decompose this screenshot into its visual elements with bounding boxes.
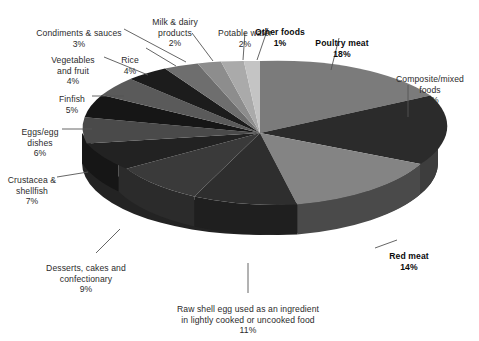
leader-line-desserts-cakes-and-confectionary: [96, 229, 120, 253]
label-crustacea-and-shellfish-text: Crustacea & shellfish: [8, 175, 56, 195]
label-finfish-text: Finfish: [59, 94, 85, 104]
label-raw-shell-egg-text: Raw shell egg used as an ingredient in l…: [177, 304, 319, 324]
label-other-foods-value: 1%: [248, 38, 312, 48]
label-milk-and-dairy-products-value: 2%: [140, 38, 210, 48]
label-other-foods-text: Other foods: [255, 27, 305, 37]
label-desserts-cakes-and-confectionary: Desserts, cakes and confectionary 9%: [30, 253, 142, 305]
label-red-meat-value: 14%: [378, 262, 440, 272]
label-condiments-and-sauces-text: Condiments & sauces: [36, 28, 122, 38]
label-rice-value: 4%: [113, 66, 147, 76]
label-crustacea-and-shellfish: Crustacea & shellfish 7%: [6, 165, 58, 217]
label-eggs-egg-dishes-value: 6%: [18, 148, 62, 158]
label-composite-mixed-foods-value: 14%: [384, 95, 476, 105]
label-poultry-meat-value: 18%: [306, 49, 378, 59]
label-desserts-cakes-and-confectionary-value: 9%: [30, 284, 142, 294]
label-milk-and-dairy-products: Milk & dairy products 2%: [140, 7, 210, 59]
label-milk-and-dairy-products-text: Milk & dairy products: [152, 17, 198, 37]
label-poultry-meat: Poultry meat 18%: [306, 28, 378, 70]
label-eggs-egg-dishes: Eggs/egg dishes 6%: [18, 117, 62, 169]
pie-chart-figure: Condiments & sauces 3% Milk & dairy prod…: [0, 0, 479, 341]
label-raw-shell-egg: Raw shell egg used as an ingredient in l…: [148, 294, 348, 341]
label-raw-shell-egg-value: 11%: [148, 325, 348, 335]
label-poultry-meat-text: Poultry meat: [315, 38, 368, 48]
label-finfish-value: 5%: [52, 105, 92, 115]
label-composite-mixed-foods: Composite/mixed foods 14%: [384, 64, 476, 116]
label-eggs-egg-dishes-text: Eggs/egg dishes: [21, 127, 58, 147]
label-rice: Rice 4%: [113, 45, 147, 87]
leader-line-crustacea-and-shellfish: [57, 172, 88, 177]
label-other-foods: Other foods 1%: [248, 17, 312, 59]
label-red-meat-text: Red meat: [389, 251, 429, 261]
label-rice-text: Rice: [121, 55, 139, 65]
label-vegetables-and-fruit-text: Vegetables and fruit: [51, 55, 95, 75]
label-crustacea-and-shellfish-value: 7%: [6, 196, 58, 206]
label-composite-mixed-foods-text: Composite/mixed foods: [396, 74, 464, 94]
label-desserts-cakes-and-confectionary-text: Desserts, cakes and confectionary: [46, 263, 126, 283]
label-red-meat: Red meat 14%: [378, 241, 440, 283]
